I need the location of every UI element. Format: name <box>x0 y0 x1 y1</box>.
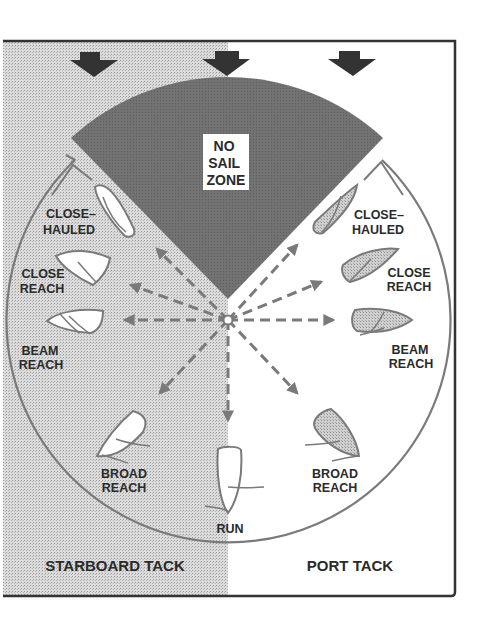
label-broad-reach-starboard: BROADREACH <box>101 467 147 495</box>
label-beam-reach-starboard: BEAMREACH <box>19 344 63 372</box>
boat-broad-reach-port <box>314 409 359 456</box>
wind-arrow-icon <box>328 51 376 76</box>
label-run: RUN <box>216 522 243 536</box>
port-tack-label: PORT TACK <box>307 557 394 574</box>
label-close-reach-starboard: CLOSEREACH <box>20 267 65 296</box>
label-broad-reach-port: BROADREACH <box>312 467 358 495</box>
label-close-reach-port: CLOSEREACH <box>387 266 431 294</box>
center-point <box>224 316 233 325</box>
points-of-sail-diagram: NO SAIL ZONE <box>0 0 487 631</box>
label-close-hauled-port: CLOSE–HAULED <box>352 208 404 237</box>
starboard-tack-label: STARBOARD TACK <box>45 557 185 574</box>
circle-tip-right <box>364 162 403 195</box>
label-beam-reach-port: BEAMREACH <box>389 343 433 371</box>
